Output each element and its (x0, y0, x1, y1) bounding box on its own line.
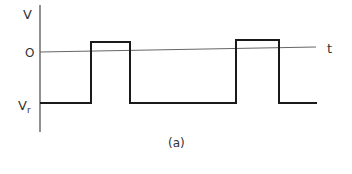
t-axis (40, 47, 316, 52)
low-level-label-sub: r (27, 105, 31, 115)
pulse-waveform-diagram: V O t Vr (a) (0, 0, 352, 174)
low-level-label-main: V (18, 98, 27, 113)
y-axis-label: V (23, 7, 32, 22)
low-level-label: Vr (18, 98, 31, 115)
zero-label: O (25, 46, 34, 60)
figure-caption: (a) (168, 136, 185, 150)
x-axis-label: t (327, 41, 332, 56)
